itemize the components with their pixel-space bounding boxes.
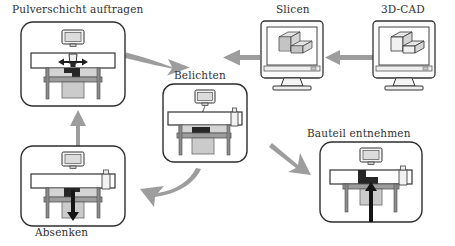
piston xyxy=(62,82,84,98)
monitor-foot xyxy=(273,86,311,90)
laser-head-icon xyxy=(195,90,215,106)
label-lower: Absenken xyxy=(35,227,88,238)
built-part xyxy=(192,127,210,133)
label-slice: Slicen xyxy=(276,4,310,15)
label-powder-deposit: Pulverschicht auftragen xyxy=(12,4,144,15)
machine-leg-left xyxy=(46,188,49,218)
machine-leg-right xyxy=(227,125,230,155)
monitor-power-led xyxy=(311,67,316,70)
arrow-cad-to-slice xyxy=(325,50,377,65)
node-slice-monitor[interactable] xyxy=(261,21,323,90)
arrow-expose-to-lower xyxy=(140,168,201,207)
monitor-icon xyxy=(360,148,382,165)
arrow-lower-to-powder xyxy=(70,110,86,148)
panel-expose[interactable] xyxy=(163,84,247,162)
monitor-power-led xyxy=(423,67,428,70)
monitor-icon xyxy=(62,30,84,47)
monitor-stand xyxy=(393,78,415,86)
machine-leg-right xyxy=(97,188,100,218)
label-expose: Belichten xyxy=(174,70,226,81)
powder-container-icon xyxy=(102,170,110,189)
machine-leg-right xyxy=(97,68,100,99)
panel-lower[interactable] xyxy=(21,146,125,226)
piston xyxy=(192,138,214,154)
process-diagram: Pulverschicht auftragen Belichten Absenk… xyxy=(0,0,455,246)
monitor-foot xyxy=(385,86,423,90)
panel-remove-part[interactable] xyxy=(320,142,422,222)
arrow-expose-to-remove xyxy=(269,143,311,175)
monitor-stand xyxy=(281,78,303,86)
monitor-icon xyxy=(62,152,84,169)
label-cad: 3D-CAD xyxy=(381,4,425,15)
build-platform xyxy=(177,133,231,138)
powder-container-icon xyxy=(399,166,407,185)
node-cad-monitor[interactable] xyxy=(373,21,435,90)
machine-leg-left xyxy=(46,68,49,99)
panel-powder-deposit[interactable] xyxy=(21,22,125,106)
build-platform xyxy=(44,77,102,82)
arrow-slice-to-powder xyxy=(223,50,260,66)
machine-leg-left xyxy=(345,184,348,212)
diagram-canvas xyxy=(0,0,455,246)
machine-leg-right xyxy=(394,184,397,212)
label-remove-part: Bauteil entnehmen xyxy=(307,128,411,139)
machine-leg-left xyxy=(179,125,182,155)
